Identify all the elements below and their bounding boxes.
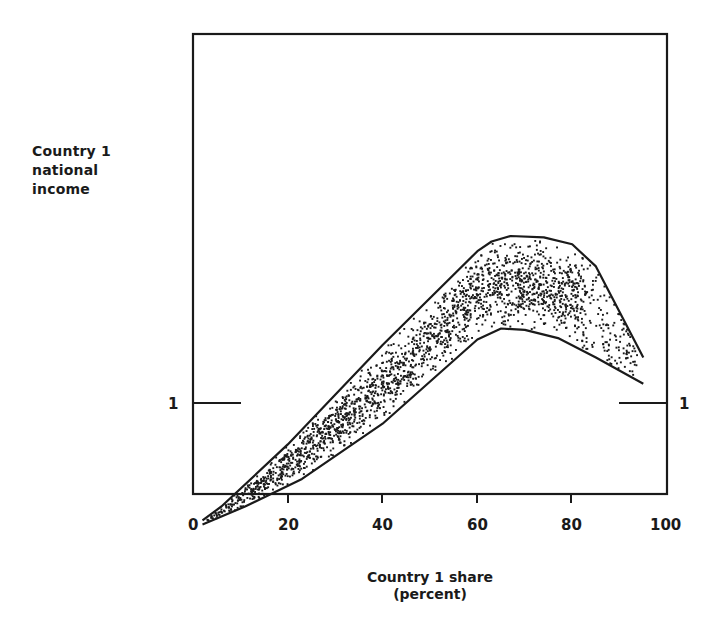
scatter-dots [207,240,639,522]
x-axis-label: Country 1 share (percent) [340,569,520,603]
x-tick-20: 20 [278,516,299,534]
x-tick-60: 60 [467,516,488,534]
x-axis-ticks [288,494,571,503]
y-tick-1-left: 1 [168,395,178,413]
x-tick-40: 40 [372,516,393,534]
plot-frame [193,34,667,494]
x-tick-100: 100 [650,516,681,534]
y-tick-1-right: 1 [679,395,689,413]
chart-plot-area [0,0,720,640]
x-tick-0: 0 [188,516,198,534]
x-tick-80: 80 [561,516,582,534]
